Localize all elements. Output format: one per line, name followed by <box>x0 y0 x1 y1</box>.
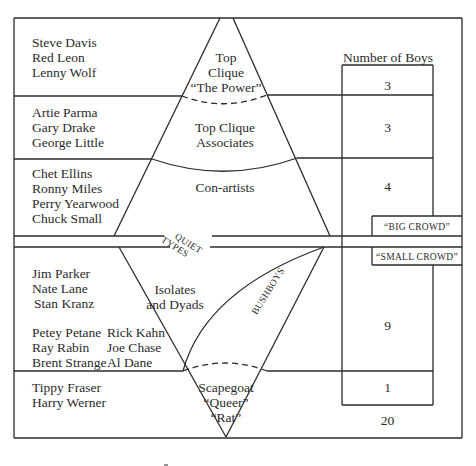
big-crowd-label: “BIG CROWD” <box>372 220 462 235</box>
name: Red Leon <box>32 50 97 65</box>
name: Gary Drake <box>32 120 104 135</box>
con-artists-count: 4 <box>342 179 433 194</box>
name: Stan Kranz <box>32 296 94 311</box>
name: Chuck Small <box>32 211 119 226</box>
name: Ray Rabin <box>32 340 107 355</box>
con-artists-label: Con-artists <box>180 180 270 195</box>
name: Nate Lane <box>32 281 94 296</box>
top-clique-count: 3 <box>342 78 433 93</box>
con-artists-names: Chet Ellins Ronny Miles Perry Yearwood C… <box>32 166 119 226</box>
name: Lenny Wolf <box>32 65 97 80</box>
name: Petey Petane <box>32 325 107 340</box>
scapegoat-count: 1 <box>342 380 433 395</box>
name: Perry Yearwood <box>32 196 119 211</box>
name: Brent Strange <box>32 355 107 370</box>
total-count: 20 <box>342 413 433 428</box>
name: Harry Werner <box>32 395 106 410</box>
isolates-label: Isolates and Dyads <box>140 282 210 312</box>
associates-names: Artie Parma Gary Drake George Little <box>32 105 104 150</box>
scapegoat-label: Scapegoat “Queer” “Rat” <box>190 380 262 425</box>
name: Chet Ellins <box>32 166 119 181</box>
associates-label: Top Clique Associates <box>180 120 270 150</box>
associates-count: 3 <box>342 120 433 135</box>
name: Jim Parker <box>32 266 94 281</box>
isolates-count: 9 <box>342 318 433 333</box>
name: Rick Kahn <box>107 325 165 340</box>
scapegoat-names: Tippy Fraser Harry Werner <box>32 380 106 410</box>
name: George Little <box>32 135 104 150</box>
name: Ronny Miles <box>32 181 119 196</box>
name: Artie Parma <box>32 105 104 120</box>
number-of-boys-header: Number of Boys <box>343 50 433 65</box>
top-clique-names: Steve Davis Red Leon Lenny Wolf <box>32 35 97 80</box>
top-clique-label: Top Clique “The Power” <box>190 50 262 95</box>
name: Tippy Fraser <box>32 380 106 395</box>
dyads-names-col1: Petey Petane Ray Rabin Brent Strange <box>32 325 107 370</box>
isolates-names: Jim Parker Nate Lane Stan Kranz <box>32 266 94 311</box>
name: Steve Davis <box>32 35 97 50</box>
name: Al Dane <box>107 355 165 370</box>
name: Joe Chase <box>107 340 165 355</box>
small-crowd-label: “SMALL CROWD” <box>372 250 462 265</box>
dyads-names-col2: Rick Kahn Joe Chase Al Dane <box>107 325 165 370</box>
